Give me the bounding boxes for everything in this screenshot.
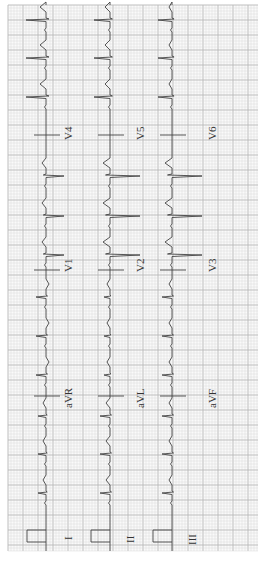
lead-label-avf: aVF — [206, 389, 218, 408]
lead-label-v2: V2 — [134, 259, 146, 272]
ecg-grid — [8, 5, 258, 551]
lead-label-v4: V4 — [62, 127, 74, 140]
lead-label-i: I — [62, 536, 74, 540]
lead-label-v3: V3 — [206, 259, 218, 272]
lead-label-avl: aVL — [134, 388, 146, 408]
ecg-strip — [0, 0, 262, 571]
lead-label-avr: aVR — [62, 388, 74, 408]
lead-label-iii: III — [186, 534, 198, 545]
lead-label-v1: V1 — [62, 259, 74, 272]
lead-label-v6: V6 — [206, 127, 218, 140]
lead-label-ii: II — [124, 536, 136, 543]
lead-label-v5: V5 — [134, 127, 146, 140]
